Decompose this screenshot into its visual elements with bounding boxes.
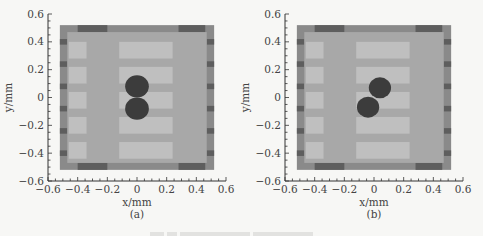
panel-label-b: (b) xyxy=(359,208,389,220)
y-tick-label: −0.2 xyxy=(256,119,282,131)
plot-field xyxy=(297,25,451,170)
x-tick-label: 0.6 xyxy=(218,183,235,195)
y-tick-label: 0.2 xyxy=(264,63,281,75)
y-tick-label: 0 xyxy=(37,91,44,103)
y-tick-label: −0.2 xyxy=(19,119,45,131)
plot-b: −0.6−0.4−0.200.20.40.60.60.40.20−0.2−0.4… xyxy=(237,0,483,225)
particle-circle xyxy=(125,75,149,97)
x-tick-label: −0.2 xyxy=(95,183,121,195)
y-axis-label: y/mm xyxy=(2,83,14,113)
x-tick-label: −0.4 xyxy=(302,183,328,195)
x-axis-label: x/mm xyxy=(359,196,388,208)
y-tick-label: −0.6 xyxy=(19,175,45,187)
panel-label-a: (a) xyxy=(122,208,152,220)
y-tick-label: 0.4 xyxy=(27,35,44,47)
particle-circle xyxy=(357,97,379,118)
y-tick-label: −0.4 xyxy=(19,147,45,159)
x-tick-label: −0.4 xyxy=(65,183,91,195)
x-tick-label: 0 xyxy=(371,183,378,195)
x-tick-label: 0.6 xyxy=(455,183,472,195)
x-tick-label: 0.4 xyxy=(188,183,205,195)
particle-circle xyxy=(369,77,391,98)
x-tick-label: 0 xyxy=(134,183,141,195)
y-tick-label: 0.6 xyxy=(27,8,44,20)
y-tick-label: 0.6 xyxy=(264,8,281,20)
x-tick-label: 0.2 xyxy=(158,183,175,195)
particle-circle xyxy=(125,98,149,120)
panel-a: −0.6−0.4−0.200.20.40.60.60.40.20−0.2−0.4… xyxy=(0,0,241,225)
y-tick-label: −0.4 xyxy=(256,147,282,159)
y-tick-label: 0 xyxy=(274,91,281,103)
y-axis-label: y/mm xyxy=(239,83,251,113)
x-tick-label: −0.2 xyxy=(332,183,358,195)
plot-a: −0.6−0.4−0.200.20.40.60.60.40.20−0.2−0.4… xyxy=(0,0,241,225)
y-tick-label: −0.6 xyxy=(256,175,282,187)
x-tick-label: 0.2 xyxy=(395,183,412,195)
x-axis-label: x/mm xyxy=(122,196,151,208)
panel-b: −0.6−0.4−0.200.20.40.60.60.40.20−0.2−0.4… xyxy=(237,0,478,225)
x-tick-label: 0.4 xyxy=(425,183,442,195)
y-tick-label: 0.4 xyxy=(264,35,281,47)
y-tick-label: 0.2 xyxy=(27,63,44,75)
figure-caption xyxy=(150,224,340,232)
